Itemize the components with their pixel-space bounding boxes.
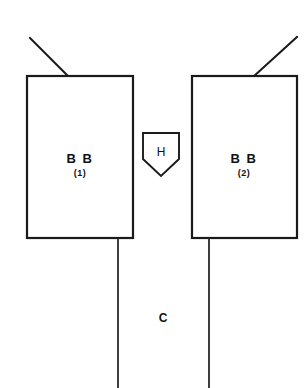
diagram-canvas: B B (1) B B (2) H C xyxy=(0,0,307,388)
busbar-2-label: B B xyxy=(231,151,258,166)
busbar-1-label: B B xyxy=(67,151,94,166)
feeder-line-left xyxy=(30,38,68,76)
feeder-line-right xyxy=(254,37,297,76)
conductor-label-c: C xyxy=(159,311,168,325)
busbar-2-sublabel: (2) xyxy=(238,168,251,178)
schematic-drawing xyxy=(0,0,307,388)
busbar-1-sublabel: (1) xyxy=(74,168,87,178)
shield-label-h: H xyxy=(157,145,166,159)
